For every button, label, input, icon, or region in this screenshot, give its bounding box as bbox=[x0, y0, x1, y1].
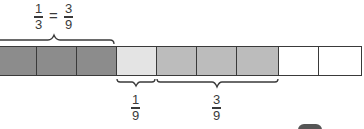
bar-cell-medium bbox=[196, 46, 238, 76]
bar-cell-dark bbox=[36, 46, 78, 76]
bar-cell-light bbox=[116, 46, 158, 76]
bar-cell-dark bbox=[0, 46, 38, 76]
denominator: 9 bbox=[132, 110, 139, 122]
bar-cell-dark bbox=[76, 46, 118, 76]
bottom-brace-three-ninths bbox=[157, 79, 278, 87]
fraction-bar bbox=[0, 46, 362, 76]
bottom-fraction-one-ninth: 1 9 bbox=[131, 94, 140, 122]
bar-cell-white bbox=[278, 46, 320, 76]
bottom-fraction-three-ninths: 3 9 bbox=[212, 94, 221, 122]
bar-cell-white bbox=[318, 46, 362, 76]
bottom-brace-one-ninth bbox=[117, 79, 155, 86]
cropped-graphic-fragment bbox=[298, 124, 322, 129]
denominator: 9 bbox=[213, 110, 220, 122]
numerator: 3 bbox=[213, 94, 220, 106]
bar-cell-medium bbox=[156, 46, 198, 76]
top-brace bbox=[0, 35, 114, 44]
numerator: 1 bbox=[132, 94, 139, 106]
bar-cell-medium bbox=[236, 46, 280, 76]
